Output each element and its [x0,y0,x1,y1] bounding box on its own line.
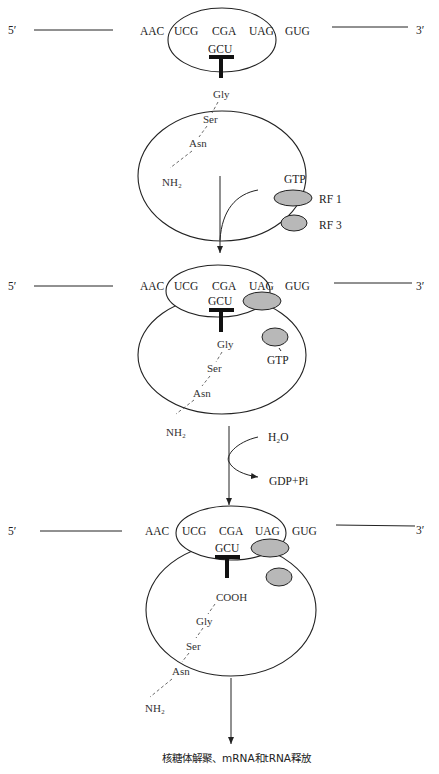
codon-aac: AAC [140,280,165,292]
five-prime-label: 5′ [8,280,16,292]
nh2-label: NH₂ [145,702,165,714]
codon-ucg: UCG [182,525,206,537]
peptide-asn: Asn [172,665,190,677]
codon-cga: CGA [212,280,237,292]
anticodon-gcu: GCU [215,542,240,554]
anticodon-gcu: GCU [208,295,233,307]
nh2-label: NH₂ [162,176,182,188]
mrna-line-right [336,525,415,526]
five-prime-label: 5′ [8,24,16,36]
stage-3: 5′ 3′ AAC UCG CGA UAG GUG GCU COOH Gly S… [8,506,424,764]
rf1-bound [251,539,289,557]
gdp-pi-label: GDP+Pi [269,475,308,487]
codon-ucg: UCG [174,25,198,37]
peptide-ser: Ser [186,640,201,652]
three-prime-label: 3′ [416,280,424,292]
peptide-ser: Ser [203,113,218,125]
rf3-label: RF 3 [319,219,342,231]
large-subunit [146,544,316,676]
trna-stem [219,310,223,332]
trna-stem [219,57,223,78]
nh2-label: NH₂ [166,426,186,438]
codon-cga: CGA [212,25,237,37]
stage-1: 5′ 3′ AAC UCG CGA UAG GUG GCU Gly Ser As… [8,8,424,253]
peptide-gly: Gly [217,338,234,350]
codon-gug: GUG [285,280,310,292]
stage-2: 5′ 3′ AAC UCG CGA UAG GUG GCU GTP Gly Se… [8,265,424,505]
codon-uag: UAG [249,280,274,292]
three-prime-label: 3′ [416,24,424,36]
five-prime-label: 5′ [8,525,16,537]
rf3-bound [262,328,288,346]
peptide-bond [150,679,172,697]
hydrolysis-curve [228,437,258,477]
rf3-bound [266,568,292,586]
codon-gug: GUG [292,525,317,537]
final-caption: 核糖体解聚、mRNA和tRNA释放 [162,752,312,764]
rf1-bound [243,292,281,310]
codon-uag: UAG [255,525,280,537]
peptide-gly: Gly [196,615,213,627]
codon-ucg: UCG [174,280,198,292]
peptide-asn: Asn [193,387,211,399]
gtp-label: GTP [267,354,289,366]
h2o-label: H₂O [268,431,289,443]
rf1-shape [274,190,312,206]
codon-gug: GUG [285,25,310,37]
anticodon-gcu: GCU [208,43,233,55]
trna-stem [225,557,229,578]
gtp-label: GTP [284,173,306,185]
three-prime-label: 3′ [416,524,424,536]
peptide-gly: Gly [213,88,230,100]
peptide-asn: Asn [189,137,207,149]
rf3-shape [281,215,307,231]
peptide-ser: Ser [207,362,222,374]
rf1-label: RF 1 [319,193,342,205]
translation-termination-diagram: 5′ 3′ AAC UCG CGA UAG GUG GCU Gly Ser As… [0,0,439,774]
codon-aac: AAC [145,525,170,537]
codon-aac: AAC [140,25,165,37]
codon-cga: CGA [219,525,244,537]
cooh-label: COOH [216,591,247,603]
codon-uag: UAG [249,25,274,37]
